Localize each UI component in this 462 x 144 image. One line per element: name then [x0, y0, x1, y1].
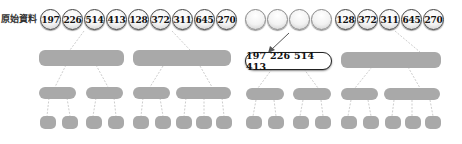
tree-leaf [425, 116, 441, 129]
tree-leaf [385, 116, 401, 129]
value-circle: 270 [216, 9, 237, 30]
tree-leaf [62, 116, 78, 129]
raw-data-label: 原始資料 [1, 12, 37, 25]
value-circle: 128 [128, 9, 149, 30]
value-circle: 372 [357, 9, 378, 30]
value-circle: 645 [401, 9, 422, 30]
tree-leaf [315, 116, 331, 129]
tree-leaf [155, 116, 171, 129]
tree-node-level1 [133, 50, 231, 66]
tree-leaf [293, 116, 309, 129]
value-circle: 413 [106, 9, 127, 30]
merged-values-box: 197 226 514 413 [245, 52, 332, 70]
tree-node-level2 [176, 87, 231, 99]
value-circle: 128 [335, 9, 356, 30]
value-circle: 270 [423, 9, 444, 30]
value-circle: 514 [84, 9, 105, 30]
tree-leaf [108, 116, 124, 129]
empty-circle [245, 9, 266, 30]
tree-leaf [133, 116, 149, 129]
tree-leaf [176, 116, 192, 129]
tree-leaf [246, 116, 262, 129]
tree-leaf [216, 116, 232, 129]
tree-leaf [268, 116, 284, 129]
tree-node-level2 [86, 87, 123, 99]
tree-leaf [363, 116, 379, 129]
empty-circle [311, 9, 332, 30]
tree-leaf [40, 116, 56, 129]
tree-node-level2 [246, 88, 284, 100]
tree-leaf [405, 116, 421, 129]
value-circle: 226 [62, 9, 83, 30]
tree-node-level2 [133, 87, 170, 99]
empty-circle [289, 9, 310, 30]
tree-leaf [196, 116, 212, 129]
value-circle: 311 [379, 9, 400, 30]
value-circle: 197 [40, 9, 61, 30]
tree-leaf [86, 116, 102, 129]
value-circle: 645 [194, 9, 215, 30]
value-circle: 372 [150, 9, 171, 30]
tree-node-level2 [341, 88, 378, 100]
tree-node-level2 [293, 88, 331, 100]
tree-node-level2 [384, 88, 440, 100]
empty-circle [267, 9, 288, 30]
tree-node-level1 [341, 52, 441, 68]
tree-node-level1 [39, 50, 124, 66]
value-circle: 311 [172, 9, 193, 30]
tree-node-level2 [39, 87, 76, 99]
tree-leaf [341, 116, 357, 129]
